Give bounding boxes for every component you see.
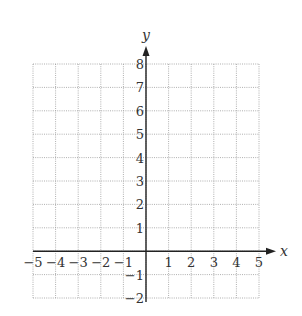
y-tick-label: 7: [136, 80, 144, 95]
y-tick-label: 5: [136, 127, 144, 142]
y-tick-label: 8: [136, 57, 144, 72]
y-axis-arrow-icon: [143, 46, 150, 56]
x-tick-label: −2: [91, 255, 110, 270]
y-tick-label: 4: [136, 151, 144, 166]
x-tick-label: −5: [23, 255, 42, 270]
y-axis-label: y: [141, 27, 151, 43]
x-axis-label: x: [280, 243, 288, 259]
x-tick-label: 1: [164, 255, 172, 270]
y-tick-labels: −2−112345678: [125, 57, 144, 306]
y-tick-label: 3: [136, 174, 144, 189]
x-tick-label: 2: [187, 255, 195, 270]
x-tick-label: −3: [69, 255, 88, 270]
x-tick-label: 3: [210, 255, 218, 270]
y-tick-label: −2: [125, 291, 144, 306]
y-tick-label: −1: [125, 268, 144, 283]
y-tick-label: 1: [136, 221, 144, 236]
x-tick-label: 5: [255, 255, 263, 270]
coordinate-grid-chart: −5−4−3−2−112345 −2−112345678 x y: [0, 0, 302, 316]
x-tick-label: −4: [46, 255, 65, 270]
x-tick-label: 4: [232, 255, 240, 270]
y-tick-label: 2: [136, 197, 144, 212]
x-axis-arrow-icon: [266, 248, 276, 255]
y-tick-label: 6: [136, 104, 144, 119]
